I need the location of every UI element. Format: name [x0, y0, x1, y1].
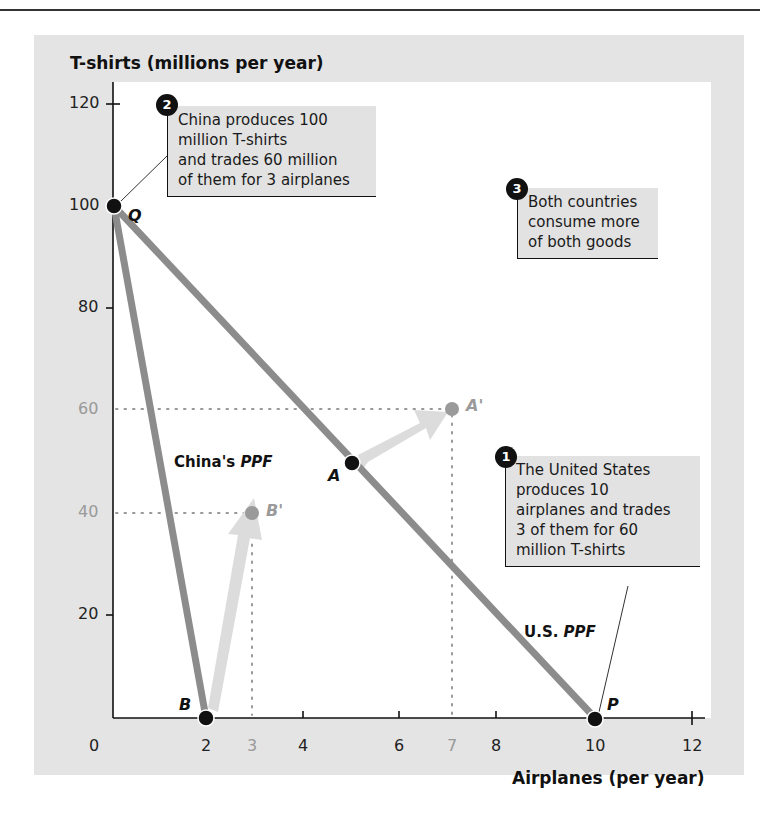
x-tick-7: 7 — [447, 736, 457, 755]
badge-1: 1 — [495, 446, 517, 468]
badge-3: 3 — [506, 178, 528, 200]
china-ppf-label: China's PPF — [174, 453, 273, 471]
x-tick-4: 4 — [298, 736, 308, 755]
label-a-prime: A' — [466, 396, 483, 415]
label-q: Q — [128, 206, 142, 225]
x-tick-0: 0 — [89, 736, 99, 755]
callout-line: 3 of them for 60 — [516, 520, 692, 540]
label-b: B — [179, 695, 191, 714]
us-ppf-label: U.S. PPF — [524, 623, 596, 641]
callout-both: Both countries consume more of both good… — [517, 188, 658, 259]
point-b-prime — [245, 506, 259, 520]
point-a-prime — [445, 402, 459, 416]
callout-line: consume more — [528, 212, 650, 232]
point-q — [106, 198, 122, 214]
y-tick-80: 80 — [78, 297, 98, 316]
x-tick-6: 6 — [394, 736, 404, 755]
x-tick-8: 8 — [491, 736, 501, 755]
callout-line: airplanes and trades — [516, 500, 692, 520]
y-tick-120: 120 — [69, 93, 100, 112]
callout-line: of both goods — [528, 232, 650, 252]
y-axis-title: T-shirts (millions per year) — [70, 53, 324, 73]
callout-line: The United States — [516, 460, 692, 480]
callout-china: China produces 100 million T-shirts and … — [167, 106, 376, 197]
x-tick-10: 10 — [585, 736, 605, 755]
label-b-prime: B' — [266, 501, 283, 520]
badge-2: 2 — [156, 94, 178, 116]
callout-line: and trades 60 million — [178, 150, 368, 170]
callout-line: million T-shirts — [178, 130, 368, 150]
callout-us: The United States produces 10 airplanes … — [505, 456, 700, 567]
label-p: P — [607, 695, 619, 714]
x-tick-12: 12 — [682, 736, 702, 755]
x-tick-2: 2 — [201, 736, 211, 755]
callout-line: China produces 100 — [178, 110, 368, 130]
callout-line: million T-shirts — [516, 540, 692, 560]
callout-line: produces 10 — [516, 480, 692, 500]
point-b — [198, 710, 214, 726]
callout-line: of them for 3 airplanes — [178, 170, 368, 190]
callout-line: Both countries — [528, 192, 650, 212]
y-tick-20: 20 — [78, 604, 98, 623]
x-tick-3: 3 — [247, 736, 257, 755]
x-axis-title: Airplanes (per year) — [512, 768, 705, 788]
chart-svg — [0, 0, 760, 830]
point-a — [344, 455, 360, 471]
y-tick-100: 100 — [69, 195, 100, 214]
label-a: A — [328, 466, 340, 485]
point-p — [587, 711, 603, 727]
y-tick-40: 40 — [78, 502, 98, 521]
y-tick-60: 60 — [78, 399, 98, 418]
